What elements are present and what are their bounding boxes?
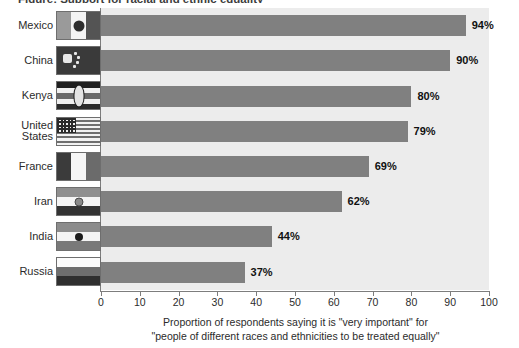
category-label-row: Russia [0,254,101,289]
category-label-row: China [0,43,101,78]
bar-value-label: 62% [348,191,370,212]
category-label-row: Iran [0,184,101,219]
china-flag [56,46,101,75]
bar-china [101,50,450,71]
bar-iran [101,191,342,212]
x-tick-label: 80 [391,296,431,308]
bar-value-label: 69% [375,156,397,177]
bar-france [101,156,369,177]
bar-value-label: 94% [472,15,494,36]
bar-value-label: 37% [251,262,273,283]
category-label-row: Mexico [0,8,101,43]
x-tick-label: 60 [314,296,354,308]
x-tick-label: 0 [81,296,121,308]
united-states-flag [56,117,101,146]
bar-united-states [101,121,408,142]
country-name: Russia [19,266,56,278]
x-tick-label: 30 [197,296,237,308]
x-tick-label: 40 [236,296,276,308]
country-name: United States [21,120,56,143]
kenya-flag [56,81,101,110]
bar-value-label: 90% [456,50,478,71]
country-name: France [19,161,56,173]
india-flag [56,222,101,251]
chart-caption: Proportion of respondents saying it is "… [101,315,490,343]
mexico-flag [56,11,101,40]
bar-kenya [101,86,411,107]
category-label-row: India [0,219,101,254]
bar-value-label: 79% [414,121,436,142]
category-label-column: MexicoChinaKenyaUnited StatesFranceIranI… [0,8,101,290]
category-label-row: France [0,149,101,184]
bar-mexico [101,15,466,36]
caption-line-2: "people of different races and ethniciti… [101,329,490,343]
category-label-row: Kenya [0,78,101,113]
country-name: China [24,55,56,67]
figure-title: Figure: Support for racial and ethnic eq… [18,0,418,3]
country-name: India [29,231,56,243]
country-name: Mexico [18,20,56,32]
x-tick-label: 10 [120,296,160,308]
x-tick-label: 90 [430,296,470,308]
iran-flag [56,187,101,216]
country-name: Kenya [22,90,56,102]
x-tick-label: 70 [353,296,393,308]
country-name: Iran [34,196,56,208]
bar-value-label: 44% [278,226,300,247]
caption-line-1: Proportion of respondents saying it is "… [101,315,490,329]
bar-india [101,226,272,247]
bar-value-label: 80% [417,86,439,107]
bar-chart-figure: Figure: Support for racial and ethnic eq… [0,0,519,348]
bar-russia [101,262,245,283]
x-tick-label: 100 [469,296,509,308]
x-tick-label: 20 [159,296,199,308]
x-tick-label: 50 [275,296,315,308]
category-label-row: United States [0,114,101,149]
russia-flag [56,257,101,286]
france-flag [56,152,101,181]
